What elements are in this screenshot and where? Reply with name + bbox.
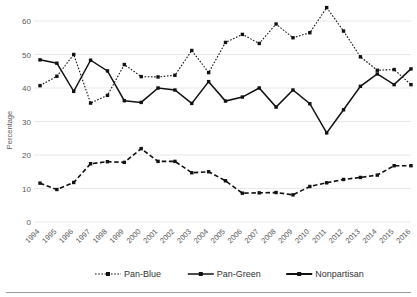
data-point-marker: [308, 102, 311, 105]
data-point-marker: [258, 42, 261, 45]
x-axis-tick-label: 2002: [158, 227, 176, 245]
legend-marker-pan-blue: [106, 272, 110, 276]
x-axis-tick-label: 1998: [91, 227, 109, 245]
data-point-marker: [190, 49, 193, 52]
data-point-marker: [55, 188, 58, 191]
data-point-marker: [392, 164, 395, 167]
data-point-marker: [156, 160, 159, 163]
data-point-marker: [190, 171, 193, 174]
x-axis-tick-label: 2005: [209, 227, 227, 245]
data-point-marker: [274, 22, 277, 25]
data-series-group: [38, 6, 412, 197]
data-point-marker: [139, 147, 142, 150]
data-point-marker: [258, 86, 261, 89]
x-axis-tick-label: 2014: [361, 227, 379, 245]
x-axis-tick-label: 1996: [57, 227, 75, 245]
data-point-marker: [359, 176, 362, 179]
data-point-marker: [392, 83, 395, 86]
x-axis-tick-label: 2013: [344, 227, 362, 245]
data-point-marker: [409, 67, 412, 70]
x-axis-tick-label: 2012: [327, 227, 345, 245]
y-axis-tick-label: 40: [22, 84, 31, 93]
data-point-marker: [139, 75, 142, 78]
data-point-marker: [409, 164, 412, 167]
y-axis-tick-label: 60: [22, 17, 31, 26]
chart-legend: Pan-BluePan-GreenNonpartisan: [95, 269, 364, 279]
data-point-marker: [106, 94, 109, 97]
data-point-marker: [72, 90, 75, 93]
series-line-nonpartisan: [40, 149, 411, 195]
data-point-marker: [173, 88, 176, 91]
data-point-marker: [325, 181, 328, 184]
data-point-marker: [325, 131, 328, 134]
x-axis-tick-label: 1997: [74, 227, 92, 245]
data-point-marker: [291, 36, 294, 39]
y-axis-tick-label: 50: [22, 51, 31, 60]
data-point-marker: [55, 75, 58, 78]
data-point-marker: [258, 191, 261, 194]
data-point-marker: [173, 160, 176, 163]
data-point-marker: [308, 185, 311, 188]
data-point-marker: [241, 33, 244, 36]
data-point-marker: [72, 53, 75, 56]
legend-label-nonpartisan[interactable]: Nonpartisan: [315, 269, 364, 279]
x-axis-tick-label: 2015: [377, 227, 395, 245]
data-point-marker: [241, 191, 244, 194]
x-axis-tick-label: 2009: [276, 227, 294, 245]
data-point-marker: [274, 191, 277, 194]
series-line-pan-green: [40, 60, 411, 133]
data-point-marker: [224, 41, 227, 44]
data-point-marker: [123, 99, 126, 102]
y-axis-tick-labels: 0102030405060: [22, 17, 31, 227]
x-axis-tick-label: 1999: [108, 227, 126, 245]
data-point-marker: [207, 71, 210, 74]
x-axis-tick-label: 2016: [394, 227, 412, 245]
x-axis-tick-label: 2007: [242, 227, 260, 245]
data-point-marker: [89, 101, 92, 104]
x-axis-tick-label: 2008: [259, 227, 277, 245]
x-axis-tick-label: 2010: [293, 227, 311, 245]
data-point-marker: [106, 69, 109, 72]
data-point-marker: [376, 69, 379, 72]
x-axis-tick-label: 1994: [23, 227, 41, 245]
legend-marker-pan-green: [199, 272, 203, 276]
data-point-marker: [291, 88, 294, 91]
data-point-marker: [342, 29, 345, 32]
x-axis-tick-label: 1995: [40, 227, 58, 245]
data-point-marker: [38, 58, 41, 61]
data-point-marker: [38, 181, 41, 184]
y-axis-tick-label: 0: [27, 218, 32, 227]
x-axis-tick-label: 2003: [175, 227, 193, 245]
data-point-marker: [241, 95, 244, 98]
y-axis-title: Percentage: [5, 111, 14, 149]
data-point-marker: [308, 31, 311, 34]
data-point-marker: [55, 62, 58, 65]
data-point-marker: [38, 84, 41, 87]
data-point-marker: [376, 72, 379, 75]
data-point-marker: [89, 58, 92, 61]
data-point-marker: [190, 102, 193, 105]
data-point-marker: [139, 101, 142, 104]
x-axis-tick-label: 2011: [310, 227, 328, 245]
data-point-marker: [409, 83, 412, 86]
y-axis-tick-label: 20: [22, 151, 31, 160]
line-chart: 0102030405060 19941995199619971998199920…: [0, 0, 417, 297]
data-point-marker: [224, 99, 227, 102]
data-point-marker: [359, 85, 362, 88]
y-axis-tick-label: 30: [22, 118, 31, 127]
x-axis-tick-labels: 1994199519961997199819992000200120022003…: [23, 227, 412, 245]
legend-label-pan-green[interactable]: Pan-Green: [217, 269, 261, 279]
gridlines-group: [34, 21, 411, 222]
data-point-marker: [274, 105, 277, 108]
data-point-marker: [376, 173, 379, 176]
x-axis-tick-label: 2004: [192, 227, 210, 245]
data-point-marker: [106, 160, 109, 163]
data-point-marker: [325, 6, 328, 9]
x-axis-tick-label: 2000: [124, 227, 142, 245]
data-point-marker: [72, 181, 75, 184]
data-point-marker: [291, 193, 294, 196]
data-point-marker: [342, 108, 345, 111]
legend-label-pan-blue[interactable]: Pan-Blue: [124, 269, 161, 279]
data-point-marker: [156, 75, 159, 78]
data-point-marker: [392, 68, 395, 71]
